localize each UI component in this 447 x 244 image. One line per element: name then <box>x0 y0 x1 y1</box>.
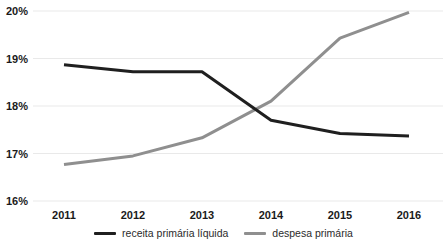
legend-item-receita: receita primária líquida <box>94 228 228 239</box>
x-axis-tick: 2016 <box>397 209 421 221</box>
legend-item-despesa: despesa primária <box>244 228 353 239</box>
y-axis-tick: 18% <box>6 100 28 112</box>
x-axis-tick: 2012 <box>121 209 145 221</box>
chart-legend: receita primária líquidadespesa primária <box>0 222 447 244</box>
plot-area: 20%19%18%17%16%201120122013201420152016 <box>0 0 447 222</box>
legend-label: receita primária líquida <box>122 228 228 239</box>
series-line-despesa <box>64 12 409 164</box>
y-axis-tick: 20% <box>6 5 28 17</box>
x-axis-tick: 2014 <box>259 209 284 221</box>
legend-line-swatch <box>244 232 266 235</box>
x-axis-tick: 2013 <box>190 209 214 221</box>
fiscal-line-chart: 20%19%18%17%16%201120122013201420152016 … <box>0 0 447 244</box>
x-axis-tick: 2011 <box>52 209 76 221</box>
legend-line-swatch <box>94 232 116 235</box>
y-axis-tick: 19% <box>6 53 28 65</box>
y-axis-tick: 16% <box>6 195 28 207</box>
legend-label: despesa primária <box>272 228 353 239</box>
x-axis-tick: 2015 <box>328 209 352 221</box>
y-axis-tick: 17% <box>6 148 28 160</box>
series-line-receita <box>64 65 409 136</box>
